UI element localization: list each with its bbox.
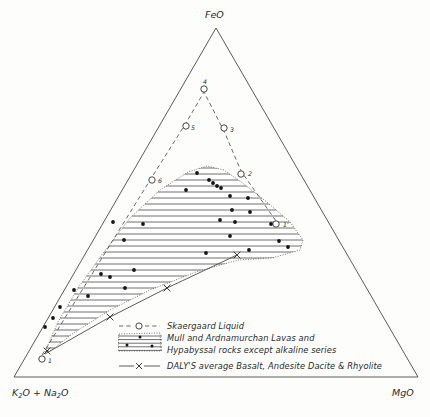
legend-symbol-daly [119,363,160,369]
skaergaard-data-point [149,177,155,183]
skaergaard-point-label: 5 [191,124,195,131]
mull-data-point [51,316,55,320]
skaergaard-point-label: 1 [48,357,52,364]
legend-label-daly: DALY'S average Basalt, Andesite Dacite &… [167,361,382,371]
mull-data-point [58,305,62,309]
skaergaard-point-label: 2 [248,170,252,177]
apex-label-alkalis: K2O + Na2O [12,387,69,400]
skaergaard-point-label: 1' [283,221,289,228]
mull-data-point [184,188,188,192]
skaergaard-data-point [238,171,244,177]
mull-data-point [111,220,115,224]
mull-data-point [215,184,219,188]
mull-data-point [230,208,234,212]
legend: Skaergaard Liquid Mull and Ardnamurchan … [118,321,382,371]
mull-data-point [247,248,251,252]
legend-label-skaergaard: Skaergaard Liquid [167,321,245,331]
legend-symbol-skaergaard [119,323,160,329]
skaergaard-data-point [201,86,207,92]
apex-label-mgo: MgO [392,387,414,398]
legend-symbol-mull [118,333,162,351]
mull-data-point [108,275,112,279]
mull-data-point [286,245,290,249]
legend-label-mull-line1: Mull and Ardnamurchan Lavas and [167,333,315,343]
skaergaard-point-label: 6 [158,177,162,184]
mull-data-point [248,210,252,214]
mull-data-point [141,222,145,226]
mull-data-point [228,194,232,198]
mull-data-point [211,181,215,185]
ternary-diagram-figure: FeO K2O + Na2O MgO 1654321' Skaergaard L… [0,0,430,417]
mull-data-point [233,220,237,224]
mull-data-point [219,186,223,190]
mull-data-point [86,294,90,298]
apex-label-feo: FeO [205,9,224,20]
mull-data-point [99,272,103,276]
daly-cross-marker [164,285,171,292]
mull-data-point [277,239,281,243]
skaergaard-data-point [221,125,227,131]
legend-label-mull-line2: Hypabyssal rocks except alkaline series [167,345,337,355]
ternary-plot-canvas: FeO K2O + Na2O MgO 1654321' Skaergaard L… [0,0,430,417]
skaergaard-point-label: 4 [203,78,207,85]
mull-data-point [195,171,199,175]
skaergaard-data-point [39,356,45,362]
mull-data-point [123,286,127,290]
mull-data-point [269,222,273,226]
skaergaard-data-point [273,221,279,227]
mull-data-point [218,218,222,222]
mull-data-point [122,238,126,242]
mull-data-point [207,178,211,182]
daly-cross-marker [107,314,114,321]
mull-data-point [132,268,136,272]
mull-data-point [72,288,76,292]
mull-data-point [228,234,232,238]
mull-data-point [204,251,208,255]
mull-data-point [43,325,47,329]
skaergaard-point-label: 3 [230,126,234,133]
skaergaard-data-point [183,123,189,129]
mull-data-point [246,196,250,200]
